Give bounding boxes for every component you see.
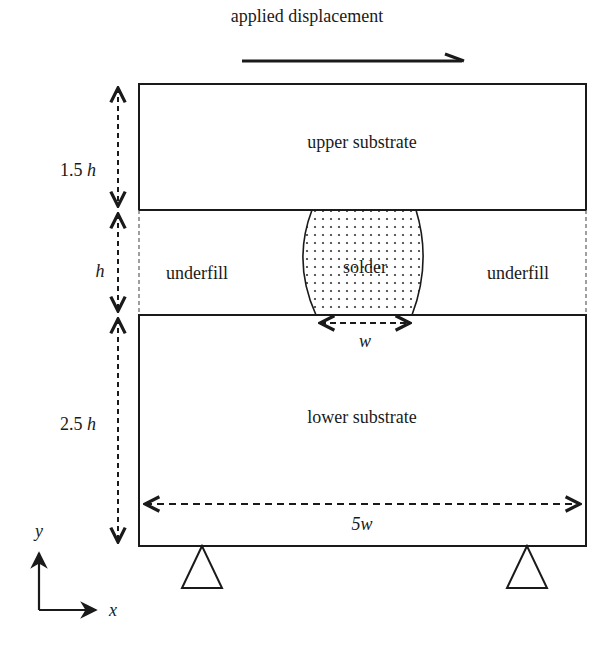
solder-width-dimension: w	[320, 323, 410, 351]
underfill-right-label: underfill	[487, 263, 549, 283]
middle-height-dimension: h	[96, 214, 119, 311]
x-axis-label: x	[108, 600, 117, 620]
lower-height-dimension: 2.5 h	[60, 319, 118, 542]
diagram-canvas: applied displacement upper substrate und…	[0, 0, 615, 658]
y-axis-label: y	[33, 521, 43, 541]
solder-joint: solder	[303, 210, 423, 315]
upper-height-dimension: 1.5 h	[60, 88, 118, 206]
underfill-left-label: underfill	[166, 263, 228, 283]
upper-substrate: upper substrate	[139, 84, 586, 210]
applied-displacement-arrow-icon	[242, 54, 464, 61]
right-support-icon	[507, 546, 547, 588]
coordinate-axes: y x	[33, 521, 117, 620]
applied-displacement-label: applied displacement	[231, 6, 383, 26]
left-support-icon	[182, 546, 222, 588]
middle-height-label: h	[96, 261, 105, 281]
lower-height-label: 2.5 h	[60, 414, 96, 434]
lower-substrate-label: lower substrate	[307, 407, 416, 427]
solder-label: solder	[343, 257, 387, 277]
upper-substrate-label: upper substrate	[307, 132, 416, 152]
total-width-dimension: 5w	[145, 504, 580, 534]
total-width-label: 5w	[351, 514, 372, 534]
solder-width-label: w	[359, 331, 371, 351]
upper-height-label: 1.5 h	[60, 160, 96, 180]
